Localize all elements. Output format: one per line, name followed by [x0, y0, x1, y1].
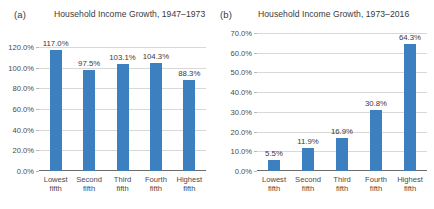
bar: [404, 44, 416, 171]
y-axis-tick-label: 10.0%: [230, 147, 252, 156]
x-axis-tick-label-line2: fifth: [262, 184, 286, 193]
y-axis-tick-mark: [36, 68, 39, 69]
y-axis-tick-label: 60.0%: [12, 105, 34, 114]
bar: [117, 64, 129, 171]
x-axis-tick-label: Highestfifth: [397, 175, 423, 194]
x-axis-tick-label-line2: fifth: [145, 184, 167, 193]
bar-value-label: 16.9%: [331, 127, 353, 136]
x-axis-tick-label: Thirdfifth: [333, 175, 350, 194]
x-axis-tick-label-line2: fifth: [333, 184, 350, 193]
x-axis-tick-label-line2: fifth: [365, 184, 387, 193]
y-axis-tick-label: 20.0%: [12, 146, 34, 155]
x-axis-tick-label-line2: fifth: [76, 184, 102, 193]
y-axis-tick-mark: [36, 130, 39, 131]
x-axis-tick-label: Secondfifth: [76, 175, 102, 194]
plot-area-a: 0.0%20.0%40.0%60.0%80.0%100.0%120.0%117.…: [39, 47, 206, 171]
y-axis-tick-mark: [254, 112, 257, 113]
chart-panel-b: (b) Household Income Growth, 1973–2016 0…: [210, 0, 434, 209]
bar-value-label: 117.0%: [43, 39, 69, 48]
x-axis-tick-label-line1: Third: [114, 175, 131, 184]
bar-value-label: 11.9%: [297, 137, 319, 146]
bar-value-label: 88.3%: [178, 69, 200, 78]
y-axis-tick-label: 100.0%: [8, 63, 34, 72]
panel-a-header: (a) Household Income Growth, 1947–1973: [0, 9, 210, 25]
x-axis-tick-label-line1: Fourth: [145, 175, 167, 184]
y-axis-tick-label: 0.0%: [17, 167, 34, 176]
y-axis-tick-mark: [36, 150, 39, 151]
y-axis-tick-mark: [36, 47, 39, 48]
x-axis-tick-label-line1: Lowest: [44, 175, 68, 184]
bar: [302, 148, 314, 171]
bar-value-label: 103.1%: [109, 53, 135, 62]
y-axis-tick-mark: [254, 92, 257, 93]
y-axis-tick-label: 120.0%: [8, 43, 34, 52]
y-axis-tick-label: 50.0%: [230, 68, 252, 77]
y-axis-tick-mark: [254, 132, 257, 133]
x-axis-tick-label: Fourthfifth: [365, 175, 387, 194]
bar: [50, 50, 62, 171]
y-axis-tick-label: 30.0%: [230, 107, 252, 116]
y-axis-tick-label: 0.0%: [235, 167, 252, 176]
y-axis-tick-mark: [254, 53, 257, 54]
x-axis-tick-label-line2: fifth: [295, 184, 321, 193]
panel-a-tag: (a): [14, 9, 26, 20]
y-axis-tick-mark: [36, 171, 39, 172]
y-axis-tick-mark: [254, 33, 257, 34]
y-axis-tick-label: 70.0%: [230, 29, 252, 38]
x-axis-tick-label-line1: Second: [76, 175, 102, 184]
bar-value-label: 64.3%: [399, 33, 421, 42]
x-axis-tick-label: Fourthfifth: [145, 175, 167, 194]
bar: [150, 63, 162, 171]
bar-value-label: 97.5%: [78, 59, 100, 68]
x-axis-tick-label-line1: Second: [295, 175, 321, 184]
x-axis-tick-label-line2: fifth: [397, 184, 423, 193]
bar: [336, 138, 348, 171]
x-axis-tick-label-line1: Highest: [176, 175, 202, 184]
bar: [183, 80, 195, 171]
chart-panel-a: (a) Household Income Growth, 1947–1973 0…: [0, 0, 210, 209]
figure-two-panel-bar-charts: (a) Household Income Growth, 1947–1973 0…: [0, 0, 434, 209]
panel-b-header: (b) Household Income Growth, 1973–2016: [210, 9, 434, 25]
x-axis-tick-label: Lowestfifth: [44, 175, 68, 194]
x-axis-tick-label-line2: fifth: [114, 184, 131, 193]
bar-value-label: 5.5%: [265, 149, 283, 158]
x-axis-tick-label: Highestfifth: [176, 175, 202, 194]
x-axis-tick-label-line1: Fourth: [365, 175, 387, 184]
y-axis-tick-mark: [36, 88, 39, 89]
y-axis-tick-mark: [254, 72, 257, 73]
y-axis-tick-label: 80.0%: [12, 84, 34, 93]
y-axis-tick-label: 40.0%: [230, 88, 252, 97]
panel-b-tag: (b): [220, 9, 232, 20]
panel-a-title: Household Income Growth, 1947–1973: [54, 9, 205, 19]
bar-value-label: 104.3%: [143, 52, 169, 61]
y-axis-tick-label: 40.0%: [12, 125, 34, 134]
y-axis-tick-label: 20.0%: [230, 127, 252, 136]
y-axis-tick-label: 60.0%: [230, 48, 252, 57]
bars-a: [39, 47, 206, 171]
x-axis-tick-label-line2: fifth: [44, 184, 68, 193]
panel-b-title: Household Income Growth, 1973–2016: [258, 9, 409, 19]
bar-value-label: 30.8%: [365, 99, 387, 108]
y-axis-tick-mark: [254, 171, 257, 172]
bar: [268, 160, 280, 171]
plot-area-b: 0.0%10.0%20.0%30.0%40.0%50.0%60.0%70.0%5…: [257, 33, 427, 171]
x-axis-tick-label-line1: Third: [333, 175, 350, 184]
x-axis-tick-label: Thirdfifth: [114, 175, 131, 194]
x-axis-tick-label-line1: Highest: [397, 175, 423, 184]
bar: [370, 110, 382, 171]
x-axis-tick-label: Lowestfifth: [262, 175, 286, 194]
x-axis-tick-label: Secondfifth: [295, 175, 321, 194]
x-axis-tick-label-line2: fifth: [176, 184, 202, 193]
bar: [83, 70, 95, 171]
x-axis-tick-label-line1: Lowest: [262, 175, 286, 184]
y-axis-tick-mark: [36, 109, 39, 110]
y-axis-tick-mark: [254, 151, 257, 152]
